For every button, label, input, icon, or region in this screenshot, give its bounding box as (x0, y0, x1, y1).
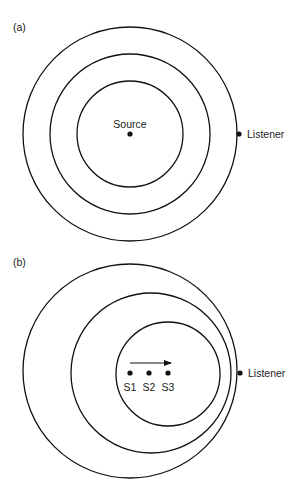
source-dot-s2 (146, 370, 151, 375)
source-dot-s3 (165, 370, 170, 375)
listener-dot (237, 370, 242, 375)
listener-dot (236, 131, 241, 136)
doppler-diagram: (a) Source Listener (b) S1 S2 S3 Listene… (0, 0, 306, 492)
source-label: Source (113, 118, 146, 130)
panel-b-label: (b) (13, 256, 26, 268)
source-label-s2: S2 (143, 381, 156, 393)
listener-label: Listener (247, 128, 285, 140)
panel-a: (a) Source Listener (13, 21, 285, 241)
source-dot-s1 (127, 370, 132, 375)
source-dot (127, 131, 132, 136)
panel-b: (b) S1 S2 S3 Listener (13, 256, 286, 478)
panel-a-label: (a) (13, 21, 26, 33)
listener-label: Listener (248, 367, 286, 379)
source-label-s3: S3 (162, 381, 175, 393)
source-label-s1: S1 (124, 381, 137, 393)
